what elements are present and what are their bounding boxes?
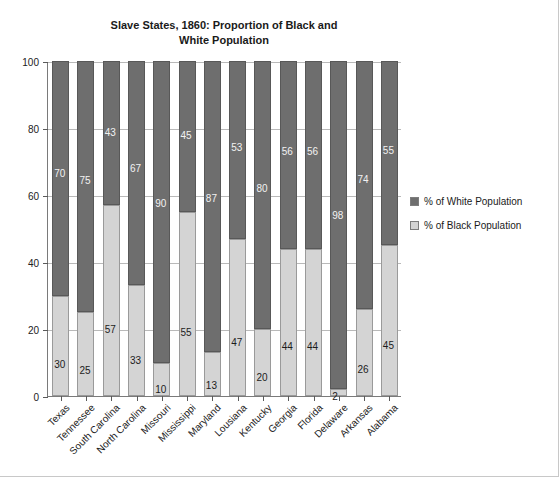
bar-value-label: 98 (332, 210, 343, 221)
bar-column[interactable]: 3367 (128, 62, 145, 396)
chart-canvas: Slave States, 1860: Proportion of Black … (0, 0, 559, 477)
bar-value-label: 26 (358, 364, 369, 375)
x-axis-tick (263, 396, 264, 401)
bar-value-label: 87 (206, 193, 217, 204)
bar-segment-black-population[interactable]: 30 (52, 296, 69, 397)
x-axis-tick (238, 396, 239, 401)
bar-column[interactable]: 4753 (229, 62, 246, 396)
x-axis-tick (86, 396, 87, 401)
bar-segment-white-population[interactable]: 53 (229, 61, 246, 239)
bar-segment-black-population[interactable]: 57 (103, 205, 120, 396)
x-axis-tick (212, 396, 213, 401)
y-axis-tick (43, 129, 48, 130)
bar-value-label: 33 (130, 355, 141, 366)
bar-value-label: 57 (105, 324, 116, 335)
bar-column[interactable]: 1090 (153, 62, 170, 396)
gridline (48, 62, 401, 63)
bar-segment-white-population[interactable]: 67 (128, 61, 145, 285)
bar-segment-black-population[interactable]: 44 (305, 249, 322, 396)
y-axis-tick (43, 263, 48, 264)
x-axis-tick (137, 396, 138, 401)
bar-column[interactable]: 4456 (280, 62, 297, 396)
bar-value-label: 67 (130, 163, 141, 174)
bar-segment-white-population[interactable]: 90 (153, 61, 170, 363)
bar-column[interactable]: 2674 (356, 62, 373, 396)
bar-value-label: 56 (282, 146, 293, 157)
legend-item-label: % of White Population (424, 196, 522, 207)
bar-column[interactable]: 1387 (204, 62, 221, 396)
x-axis-tick (314, 396, 315, 401)
bar-column[interactable]: 3070 (52, 62, 69, 396)
x-axis-tick (364, 396, 365, 401)
bar-value-label: 53 (231, 142, 242, 153)
bar-segment-white-population[interactable]: 45 (179, 61, 196, 212)
bar-column[interactable]: 2080 (254, 62, 271, 396)
bar-segment-white-population[interactable]: 43 (103, 61, 120, 205)
y-axis-label: 20 (28, 325, 39, 336)
bar-column[interactable]: 298 (330, 62, 347, 396)
bar-segment-white-population[interactable]: 74 (356, 61, 373, 309)
bar-column[interactable]: 2575 (77, 62, 94, 396)
bar-value-label: 43 (105, 127, 116, 138)
bar-value-label: 25 (79, 365, 90, 376)
legend-swatch-icon (410, 197, 419, 206)
chart-title: Slave States, 1860: Proportion of Black … (47, 18, 401, 48)
y-axis-tick (43, 196, 48, 197)
bar-value-label: 75 (79, 175, 90, 186)
bar-segment-white-population[interactable]: 56 (280, 61, 297, 249)
legend-swatch-icon (410, 221, 419, 230)
chart-legend: % of White Population% of Black Populati… (410, 196, 550, 244)
gridline (48, 330, 401, 331)
legend-item[interactable]: % of White Population (410, 196, 550, 207)
bar-value-label: 45 (181, 130, 192, 141)
gridline (48, 196, 401, 197)
x-axis-tick (187, 396, 188, 401)
bar-value-label: 55 (181, 327, 192, 338)
gridline (48, 263, 401, 264)
legend-item-label: % of Black Population (424, 220, 521, 231)
y-axis-label: 0 (33, 392, 39, 403)
x-axis-tick (288, 396, 289, 401)
bar-value-label: 70 (54, 168, 65, 179)
bar-segment-white-population[interactable]: 56 (305, 61, 322, 249)
x-axis-tick (389, 396, 390, 401)
bar-column[interactable]: 4555 (381, 62, 398, 396)
plot-area: 0204060801003070257557433367109055451387… (47, 62, 401, 397)
bar-segment-black-population[interactable]: 25 (77, 312, 94, 396)
y-axis-tick (43, 397, 48, 398)
y-axis-tick (43, 330, 48, 331)
y-axis-label: 60 (28, 191, 39, 202)
x-axis-tick (162, 396, 163, 401)
bar-value-label: 30 (54, 359, 65, 370)
gridline (48, 129, 401, 130)
bar-column[interactable]: 5743 (103, 62, 120, 396)
x-axis-tick (339, 396, 340, 401)
bar-value-label: 74 (358, 174, 369, 185)
bar-value-label: 56 (307, 146, 318, 157)
bar-value-label: 45 (383, 340, 394, 351)
bar-value-label: 90 (155, 198, 166, 209)
bar-value-label: 44 (307, 341, 318, 352)
legend-item[interactable]: % of Black Population (410, 220, 550, 231)
x-axis-tick (61, 396, 62, 401)
y-axis-label: 100 (22, 57, 39, 68)
y-axis-tick (43, 62, 48, 63)
bar-value-label: 80 (256, 183, 267, 194)
bar-segment-white-population[interactable]: 70 (52, 61, 69, 296)
x-axis-tick (111, 396, 112, 401)
bar-column[interactable]: 5545 (179, 62, 196, 396)
bar-segment-white-population[interactable]: 75 (77, 61, 94, 312)
bar-column[interactable]: 4456 (305, 62, 322, 396)
bar-segment-white-population[interactable]: 98 (330, 61, 347, 389)
bar-segment-white-population[interactable]: 80 (254, 61, 271, 329)
bar-value-label: 44 (282, 341, 293, 352)
bar-value-label: 55 (383, 145, 394, 156)
bar-value-label: 47 (231, 337, 242, 348)
bar-segment-white-population[interactable]: 87 (204, 61, 221, 352)
y-axis-label: 40 (28, 258, 39, 269)
y-axis-label: 80 (28, 124, 39, 135)
bar-segment-white-population[interactable]: 55 (381, 61, 398, 245)
